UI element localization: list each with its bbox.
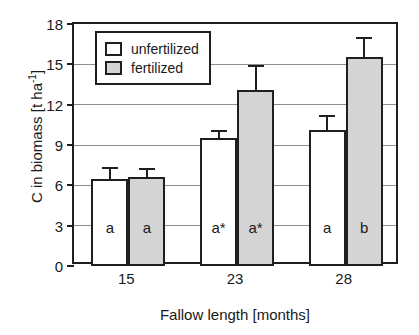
error-bar-cap-unfertilized-23 bbox=[211, 130, 227, 132]
error-bar-cap-unfertilized-15 bbox=[102, 167, 118, 169]
bar-unfertilized-15: a bbox=[91, 179, 128, 266]
bar-annotation-unfertilized-23: a* bbox=[202, 219, 235, 236]
error-bar-cap-fertilized-15 bbox=[139, 168, 155, 170]
bar-annotation-unfertilized-28: a bbox=[311, 219, 344, 236]
y-tick-label: 3 bbox=[55, 217, 63, 234]
bar-unfertilized-23: a* bbox=[200, 138, 237, 266]
y-tick-mark bbox=[67, 144, 74, 146]
chart-legend: unfertilized fertilized bbox=[95, 31, 211, 85]
y-tick-label: 18 bbox=[46, 16, 63, 33]
y-tick-label: 0 bbox=[55, 258, 63, 275]
x-tick-label-15: 15 bbox=[118, 270, 135, 287]
bar-fertilized-23: a* bbox=[237, 90, 274, 266]
y-tick-mark bbox=[67, 225, 74, 227]
y-tick-mark bbox=[67, 184, 74, 186]
legend-swatch-fertilized bbox=[105, 61, 122, 75]
bar-chart-figure: C in biomass [t ha-1] 0369121518aaa*a*ab… bbox=[0, 0, 419, 335]
error-bar-stem-fertilized-28 bbox=[363, 37, 365, 57]
x-tick-label-28: 28 bbox=[335, 270, 352, 287]
x-axis-title: Fallow length [months] bbox=[72, 306, 398, 323]
y-axis-title-base: C in biomass [t ha bbox=[28, 83, 45, 203]
y-axis-title-exponent: -1 bbox=[27, 74, 38, 83]
y-axis-title-close: ] bbox=[28, 70, 45, 74]
y-tick-mark bbox=[67, 63, 74, 65]
error-bar-cap-fertilized-23 bbox=[248, 65, 264, 67]
error-bar-cap-fertilized-28 bbox=[356, 37, 372, 39]
y-tick-label: 9 bbox=[55, 137, 63, 154]
y-tick-mark bbox=[67, 23, 74, 25]
legend-swatch-unfertilized bbox=[105, 42, 122, 56]
error-bar-cap-unfertilized-28 bbox=[319, 115, 335, 117]
legend-label-fertilized: fertilized bbox=[131, 60, 183, 76]
bar-fertilized-28: b bbox=[346, 57, 383, 266]
y-tick-label: 6 bbox=[55, 177, 63, 194]
y-tick-mark bbox=[67, 265, 74, 267]
error-bar-stem-fertilized-23 bbox=[255, 65, 257, 90]
bar-fertilized-15: a bbox=[128, 177, 165, 266]
bar-annotation-fertilized-28: b bbox=[348, 219, 381, 236]
x-tick-label-23: 23 bbox=[227, 270, 244, 287]
bar-annotation-unfertilized-15: a bbox=[93, 219, 126, 236]
legend-entry-unfertilized: unfertilized bbox=[105, 39, 199, 58]
bar-unfertilized-28: a bbox=[309, 130, 346, 266]
bar-annotation-fertilized-15: a bbox=[130, 219, 163, 236]
legend-entry-fertilized: fertilized bbox=[105, 58, 199, 77]
legend-label-unfertilized: unfertilized bbox=[131, 41, 199, 57]
error-bar-stem-unfertilized-28 bbox=[326, 115, 328, 130]
y-tick-label: 15 bbox=[46, 56, 63, 73]
y-tick-mark bbox=[67, 104, 74, 106]
bar-annotation-fertilized-23: a* bbox=[239, 219, 272, 236]
y-tick-label: 12 bbox=[46, 96, 63, 113]
y-axis-title: C in biomass [t ha-1] bbox=[28, 17, 45, 257]
